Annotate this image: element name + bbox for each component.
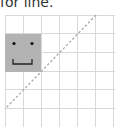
left-eye [12,42,15,45]
face-icon [5,34,41,72]
right-eye [30,42,33,45]
grid-diagram [0,0,115,127]
